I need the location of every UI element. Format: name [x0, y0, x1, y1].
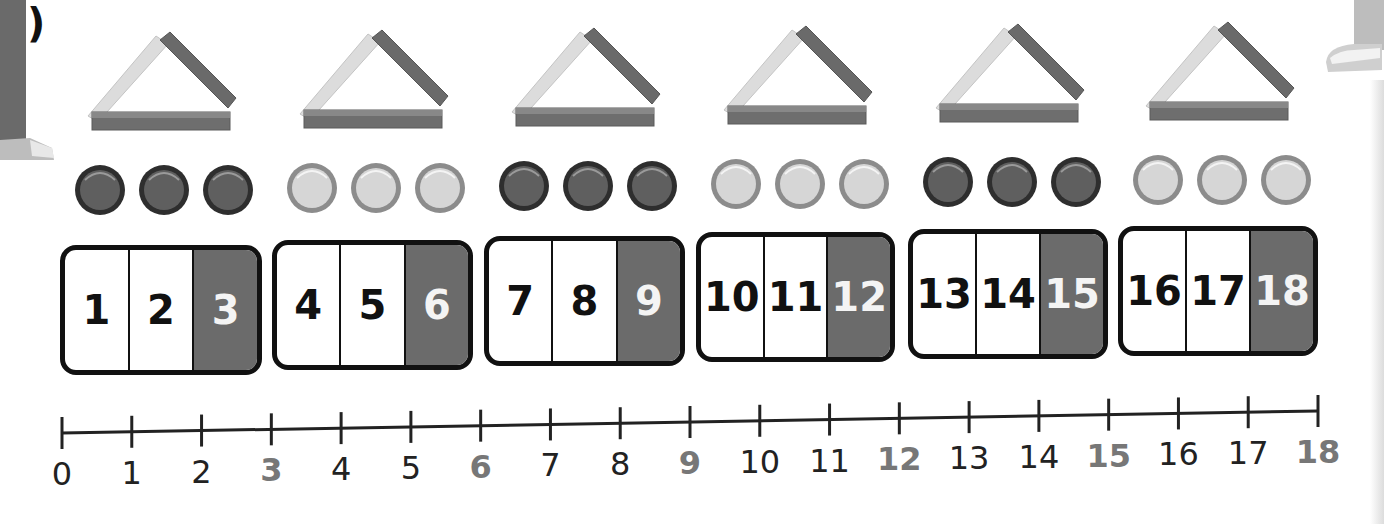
triangle-icon [88, 32, 236, 130]
dark-counter-icon [627, 161, 677, 211]
number-line-label: 6 [470, 448, 492, 486]
dark-counter-icon [923, 157, 973, 207]
number-cell: 2 [130, 250, 195, 370]
number-line-label: 11 [809, 442, 850, 480]
number-line-label: 1 [122, 454, 142, 492]
number-group-box: 456 [272, 240, 473, 370]
number-cell: 7 [489, 241, 553, 361]
number-cell: 10 [701, 237, 765, 357]
number-cell: 16 [1123, 231, 1187, 351]
shaded-number-cell: 12 [828, 237, 890, 357]
number-line-label: 10 [739, 443, 780, 481]
light-counter-icon [711, 159, 761, 209]
dark-counter-icon [203, 165, 253, 215]
number-cell: 14 [977, 234, 1041, 354]
number-cell: 13 [913, 234, 977, 354]
number-line-label: 18 [1296, 433, 1341, 471]
dark-counter-icon [987, 157, 1037, 207]
number-cell: 17 [1187, 231, 1251, 351]
number-line-label: 13 [949, 439, 990, 477]
dark-counter-icon [75, 165, 125, 215]
shaded-number-cell: 15 [1041, 234, 1103, 354]
number-line-label: 15 [1086, 437, 1131, 475]
dark-counter-icon [499, 161, 549, 211]
number-line-label: 8 [610, 445, 630, 483]
shaded-number-cell: 18 [1251, 231, 1313, 351]
number-line-label: 16 [1158, 435, 1199, 473]
light-counter-icon [415, 163, 465, 213]
number-line-label: 4 [331, 450, 351, 488]
dark-counter-icon [563, 161, 613, 211]
dark-counter-icon [139, 165, 189, 215]
number-cell: 1 [65, 250, 130, 370]
triangle-icon [724, 26, 872, 124]
number-group-box: 789 [484, 236, 685, 366]
number-line-label: 3 [260, 451, 282, 489]
number-cell: 11 [765, 237, 829, 357]
triangle-icon [936, 24, 1084, 122]
light-counter-icon [351, 163, 401, 213]
number-line-label: 2 [191, 453, 211, 491]
dark-counter-icon [1051, 157, 1101, 207]
number-cell: 8 [553, 241, 617, 361]
number-line-label: 7 [540, 446, 560, 484]
number-group-box: 123 [60, 245, 262, 375]
number-line-label: 9 [679, 444, 701, 482]
number-line-label: 5 [401, 449, 421, 487]
number-cell: 4 [277, 245, 341, 365]
shaded-number-cell: 3 [194, 250, 257, 370]
light-counter-icon [775, 159, 825, 209]
number-group-box: 161718 [1118, 226, 1318, 356]
number-line-label: 14 [1019, 438, 1060, 476]
triangle-icon [300, 30, 448, 128]
number-cell: 5 [341, 245, 405, 365]
number-group-box: 131415 [908, 229, 1108, 359]
number-line-label: 17 [1228, 434, 1269, 472]
number-line-label: 12 [877, 440, 922, 478]
light-counter-icon [839, 159, 889, 209]
light-counter-icon [287, 163, 337, 213]
light-counter-icon [1197, 155, 1247, 205]
light-counter-icon [1261, 155, 1311, 205]
number-line-label: 0 [52, 455, 72, 493]
triangle-icon [512, 28, 660, 126]
number-group-box: 101112 [696, 232, 895, 362]
shaded-number-cell: 9 [618, 241, 680, 361]
shaded-number-cell: 6 [406, 245, 468, 365]
triangle-icon [1146, 22, 1294, 120]
light-counter-icon [1133, 155, 1183, 205]
